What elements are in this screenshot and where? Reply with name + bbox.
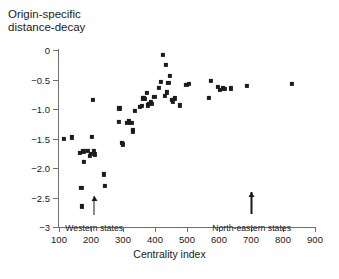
data-point	[157, 86, 161, 90]
y-tick-label: 0	[45, 45, 50, 56]
data-point	[245, 84, 249, 88]
data-point	[166, 81, 170, 85]
data-point	[79, 186, 83, 190]
x-tick-label: 500	[179, 234, 195, 245]
data-point	[161, 53, 165, 57]
y-tick-label: −2.0	[31, 163, 50, 174]
x-tick-label: 300	[115, 234, 131, 245]
data-point	[103, 184, 107, 188]
data-point	[159, 80, 163, 84]
data-point	[62, 137, 66, 141]
data-point	[164, 63, 168, 67]
x-tick-label: 200	[83, 234, 99, 245]
data-point	[145, 91, 149, 95]
data-point	[229, 86, 233, 90]
data-point	[165, 90, 169, 94]
data-point	[207, 96, 211, 100]
x-tick-label: 100	[51, 234, 67, 245]
x-tick-label: 400	[147, 234, 163, 245]
y-tick-mark	[53, 198, 58, 199]
x-axis-label: Centrality index	[0, 248, 339, 260]
data-point	[173, 96, 177, 100]
scatter-plot-figure: Origin-specific distance-decay 0−0.5−1.0…	[0, 0, 339, 279]
data-point	[152, 95, 156, 99]
y-tick-mark	[53, 139, 58, 140]
x-tick-mark	[315, 228, 316, 232]
annotation-label: Western states	[65, 223, 123, 233]
data-point	[150, 102, 154, 106]
y-tick-mark	[53, 80, 58, 81]
y-tick-mark	[53, 227, 58, 228]
x-tick-label: 700	[243, 234, 259, 245]
data-point	[131, 128, 135, 132]
chart-title: Origin-specific distance-decay	[8, 8, 85, 34]
data-point	[90, 135, 94, 139]
data-point	[117, 106, 121, 110]
data-point	[178, 103, 182, 107]
data-point	[93, 152, 97, 156]
y-tick-mark	[53, 50, 58, 51]
data-point	[129, 121, 133, 125]
y-tick-mark	[53, 109, 58, 110]
y-tick-label: −0.5	[31, 74, 50, 85]
y-tick-label: −2.5	[31, 192, 50, 203]
data-point	[290, 82, 294, 86]
arrow-head	[91, 196, 97, 201]
y-tick-label: −3	[39, 222, 50, 233]
data-point	[168, 74, 172, 78]
data-point	[139, 104, 143, 108]
data-point	[187, 82, 191, 86]
annotation-arrow-icon	[91, 196, 98, 215]
data-point	[70, 135, 74, 139]
data-point	[121, 142, 125, 146]
data-point	[209, 79, 213, 83]
data-point	[91, 97, 95, 101]
data-point	[223, 87, 227, 91]
data-point	[80, 204, 84, 208]
x-tick-label: 900	[307, 234, 323, 245]
annotation-arrow-icon	[248, 192, 255, 214]
x-tick-mark	[59, 228, 60, 232]
y-tick-label: −1.0	[31, 104, 50, 115]
data-point	[102, 172, 106, 176]
data-point	[143, 97, 147, 101]
data-point	[82, 160, 86, 164]
y-tick-mark	[53, 168, 58, 169]
data-point	[133, 109, 137, 113]
annotation-label: North-eastern states	[212, 223, 291, 233]
x-tick-mark	[187, 228, 188, 232]
x-tick-label: 800	[275, 234, 291, 245]
y-tick-label: −1.5	[31, 133, 50, 144]
x-tick-label: 600	[211, 234, 227, 245]
x-tick-mark	[155, 228, 156, 232]
arrow-head	[249, 192, 255, 197]
data-point	[116, 120, 120, 124]
